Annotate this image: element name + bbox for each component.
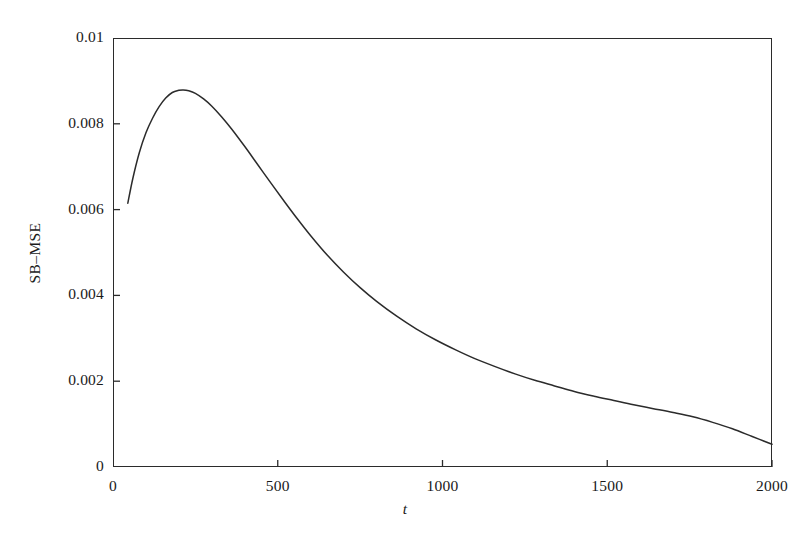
x-axis-tick-labels: 0500100015002000 [0, 477, 810, 499]
x-axis-label: t [0, 500, 810, 518]
y-tick-label: 0.006 [68, 200, 104, 218]
y-tick-label: 0.004 [68, 285, 104, 303]
x-tick-label: 1500 [591, 477, 623, 495]
x-tick-label: 0 [109, 477, 117, 495]
x-tick-label: 2000 [756, 477, 788, 495]
x-tick-label: 1000 [427, 477, 459, 495]
y-tick-label: 0.01 [76, 28, 104, 46]
plot-area [113, 38, 772, 467]
chart-figure: SB–MSE 00.0020.0040.0060.0080.01 0500100… [0, 0, 810, 538]
y-axis-label: SB–MSE [26, 222, 44, 283]
x-tick-label: 500 [266, 477, 290, 495]
y-axis-label-holder: SB–MSE [22, 38, 48, 467]
y-tick-label: 0.002 [68, 371, 104, 389]
y-tick-label: 0.008 [68, 114, 104, 132]
y-tick-label: 0 [96, 457, 104, 475]
